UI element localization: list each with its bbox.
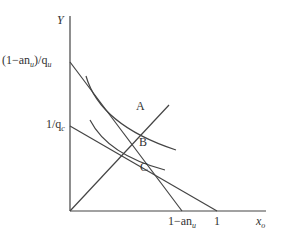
y-tick-upper-label: (1−anu)/qu bbox=[2, 54, 51, 68]
steep-budget-line bbox=[70, 62, 182, 211]
y-tick-lower-label: 1/qc bbox=[46, 118, 65, 132]
upper-indifference-curve bbox=[86, 76, 176, 150]
x-tick-1-label: 1 bbox=[214, 215, 220, 227]
y-axis-label: Y bbox=[57, 14, 64, 26]
diagram-canvas bbox=[0, 0, 283, 236]
x-tick-1-minus-an-label: 1−anu bbox=[168, 215, 196, 229]
point-c-label: C bbox=[140, 161, 148, 173]
point-a-label: A bbox=[136, 100, 145, 112]
ray-from-origin bbox=[70, 105, 169, 211]
x-axis-label: xo bbox=[256, 215, 265, 229]
point-b-label: B bbox=[139, 136, 147, 148]
